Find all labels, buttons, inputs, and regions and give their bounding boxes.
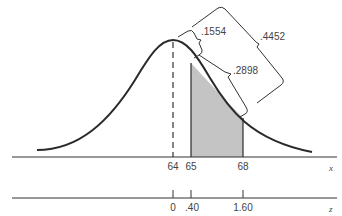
- area-label-2898: .2898: [233, 65, 258, 76]
- area-label-4452: .4452: [260, 31, 285, 42]
- z-tick-label-40: .40: [185, 202, 199, 213]
- z-tick-label-0: 0: [170, 202, 176, 213]
- x-tick-label-64: 64: [167, 161, 179, 172]
- x-tick-label-68: 68: [237, 161, 249, 172]
- x-axis-label: x: [328, 163, 333, 173]
- z-tick-label-160: 1.60: [233, 202, 253, 213]
- area-label-1554: .1554: [201, 26, 226, 37]
- x-tick-label-65: 65: [185, 161, 197, 172]
- shaded-area: [191, 63, 243, 157]
- normal-distribution-figure: 64 65 68 x 0 .40 1.60 z .1554 .2898 .445…: [0, 0, 342, 216]
- normal-curve: [37, 40, 312, 152]
- bracket-1554: [178, 30, 202, 58]
- z-axis-label: z: [328, 204, 333, 214]
